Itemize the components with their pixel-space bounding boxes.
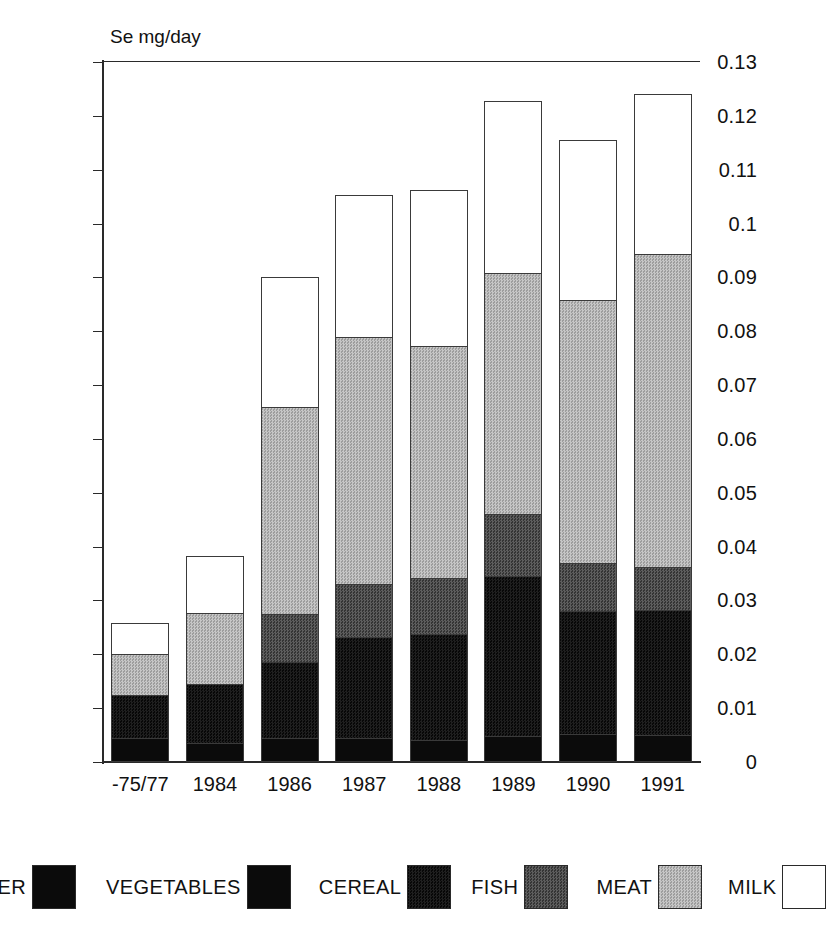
bar-segment-milk[interactable] [410, 190, 468, 346]
bar-segment-meat[interactable] [261, 407, 319, 614]
bar-segment-fish[interactable] [410, 578, 468, 634]
bar-segment-other[interactable] [186, 743, 244, 762]
legend-item-cereal[interactable]: CEREAL [319, 865, 451, 909]
bar-column[interactable] [186, 62, 244, 762]
bar-column[interactable] [335, 62, 393, 762]
legend-item-fish[interactable]: FISH [471, 865, 568, 909]
bar-segment-fish[interactable] [484, 514, 542, 575]
bar-segment-other[interactable] [335, 738, 393, 762]
bar-column[interactable] [261, 62, 319, 762]
bar-segment-milk[interactable] [111, 623, 169, 655]
bar-segment-cereal[interactable] [559, 611, 617, 734]
bar-segment-cereal[interactable] [410, 634, 468, 741]
bar-segment-meat[interactable] [634, 254, 692, 566]
legend-item-other[interactable]: OTHER [0, 865, 76, 909]
bar-segment-meat[interactable] [410, 346, 468, 578]
x-axis-tick-label: 1991 [625, 773, 700, 795]
bar-segment-meat[interactable] [335, 337, 393, 585]
bar-column[interactable] [111, 62, 169, 762]
legend-label: MEAT [596, 877, 658, 897]
x-axis-tick-label: 1984 [178, 773, 253, 795]
bar-segment-cereal[interactable] [111, 695, 169, 738]
x-axis-tick-label: -75/77 [103, 773, 178, 795]
bar-column[interactable] [410, 62, 468, 762]
y-axis-tick [93, 762, 104, 763]
bar-column[interactable] [634, 62, 692, 762]
bar-segment-meat[interactable] [484, 273, 542, 514]
chart-legend: OTHERVEGETABLESCEREALFISHMEATMILK [0, 857, 757, 917]
bar-segment-other[interactable] [559, 734, 617, 762]
legend-label: FISH [471, 877, 524, 897]
legend-item-vegetables[interactable]: VEGETABLES [106, 865, 291, 909]
bar-segment-other[interactable] [111, 738, 169, 762]
legend-swatch [658, 865, 702, 909]
legend-swatch [782, 865, 826, 909]
chart-area: Se mg/day 0.130.120.110.10.090.080.070.0… [0, 0, 757, 845]
bar-segment-meat[interactable] [186, 613, 244, 684]
bar-column[interactable] [559, 62, 617, 762]
bar-segment-fish[interactable] [335, 584, 393, 637]
bar-segment-other[interactable] [261, 738, 319, 762]
y-axis-title: Se mg/day [110, 27, 201, 46]
legend-item-meat[interactable]: MEAT [596, 865, 702, 909]
bar-segment-meat[interactable] [559, 300, 617, 563]
bar-segment-cereal[interactable] [634, 610, 692, 735]
plot-bars [103, 62, 700, 762]
legend-item-milk[interactable]: MILK [728, 865, 826, 909]
bar-segment-fish[interactable] [559, 563, 617, 611]
bar-segment-milk[interactable] [261, 277, 319, 406]
bar-segment-other[interactable] [410, 740, 468, 762]
bar-segment-milk[interactable] [559, 140, 617, 300]
bar-segment-other[interactable] [484, 736, 542, 762]
x-axis-tick-label: 1990 [551, 773, 626, 795]
legend-label: MILK [728, 877, 782, 897]
bar-segment-other[interactable] [634, 735, 692, 762]
bar-segment-milk[interactable] [186, 556, 244, 613]
bar-segment-meat[interactable] [111, 654, 169, 694]
bar-segment-milk[interactable] [335, 195, 393, 337]
legend-swatch [407, 865, 451, 909]
x-axis-tick-label: 1987 [327, 773, 402, 795]
bar-segment-fish[interactable] [634, 567, 692, 610]
x-axis-tick-label: 1989 [476, 773, 551, 795]
legend-swatch [32, 865, 76, 909]
bar-segment-milk[interactable] [634, 94, 692, 254]
bar-column[interactable] [484, 62, 542, 762]
bar-segment-cereal[interactable] [335, 637, 393, 738]
legend-label: VEGETABLES [106, 877, 247, 897]
legend-label: OTHER [0, 877, 32, 897]
bar-segment-cereal[interactable] [261, 662, 319, 737]
bar-segment-cereal[interactable] [186, 684, 244, 743]
bar-segment-fish[interactable] [261, 614, 319, 662]
x-axis-tick-label: 1986 [252, 773, 327, 795]
legend-swatch [524, 865, 568, 909]
legend-label: CEREAL [319, 877, 407, 897]
x-axis-tick-label: 1988 [402, 773, 477, 795]
legend-swatch [247, 865, 291, 909]
bar-segment-milk[interactable] [484, 101, 542, 273]
bar-segment-cereal[interactable] [484, 576, 542, 736]
